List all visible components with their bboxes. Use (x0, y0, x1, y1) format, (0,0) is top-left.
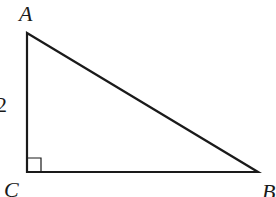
right-angle-marker (27, 158, 41, 172)
triangle-diagram: A C B 2 (0, 0, 276, 197)
vertex-label-b: B (262, 179, 275, 197)
triangle-abc (27, 33, 258, 172)
vertex-label-c: C (4, 177, 19, 197)
vertex-label-a: A (17, 1, 33, 26)
side-label-ac: 2 (0, 92, 7, 117)
